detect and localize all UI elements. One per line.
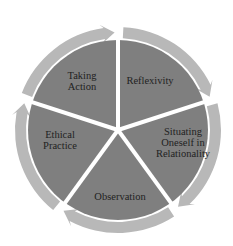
stage-label: Observation xyxy=(94,191,145,202)
cycle-graphic xyxy=(0,0,233,246)
stage-label: Reflexivity xyxy=(126,75,173,86)
stage-label: Situating Oneself in Relationality xyxy=(156,126,210,159)
cycle-diagram: ReflexivitySituating Oneself in Relation… xyxy=(0,0,233,246)
stage-label: Ethical Practice xyxy=(43,129,77,151)
stage-label: Taking Action xyxy=(67,70,96,92)
